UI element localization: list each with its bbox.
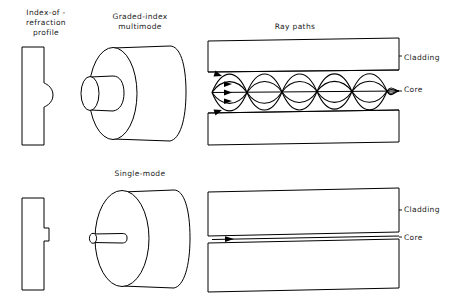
single-mode-profile-shape (22, 198, 49, 290)
arrowhead-axial (224, 90, 232, 96)
single-mode-core-face (89, 233, 96, 243)
cladding-top-row2 (208, 188, 399, 236)
diagram-canvas (0, 0, 463, 303)
graded-index-ray-bundle (212, 74, 399, 111)
cladding-bottom-row2 (208, 239, 399, 292)
single-mode-ray (212, 236, 399, 240)
cladding-bottom-row1 (208, 110, 399, 145)
arrowhead-inner-up (224, 81, 232, 87)
graded-index-profile-shape (22, 47, 53, 145)
arrowhead-single-mode-ray (225, 236, 234, 242)
ray-axial (212, 91, 399, 93)
cladding-top-row1 (208, 38, 399, 72)
single-mode-core-body (93, 234, 127, 244)
graded-index-core-face (81, 77, 99, 111)
optical-fiber-diagram: Index-of -refractionprofile Graded-index… (0, 0, 463, 303)
